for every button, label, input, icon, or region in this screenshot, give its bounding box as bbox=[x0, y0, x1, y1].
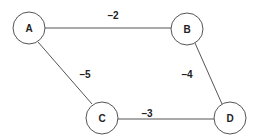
node-label-b: B bbox=[183, 24, 190, 35]
node-b: B bbox=[171, 13, 203, 45]
edge-b-d bbox=[195, 43, 222, 104]
node-label-d: D bbox=[226, 113, 233, 124]
edge-label-a-b: –2 bbox=[107, 10, 119, 21]
graph-diagram: –2 –5 –4 –3 A B C D bbox=[0, 0, 261, 139]
node-c: C bbox=[86, 102, 118, 134]
node-a: A bbox=[13, 12, 45, 44]
edge-label-c-d: –3 bbox=[141, 108, 153, 119]
node-d: D bbox=[214, 102, 246, 134]
node-label-c: C bbox=[98, 113, 105, 124]
node-label-a: A bbox=[25, 23, 32, 34]
edge-label-a-c: –5 bbox=[79, 69, 91, 80]
edge-label-b-d: –4 bbox=[181, 69, 193, 80]
